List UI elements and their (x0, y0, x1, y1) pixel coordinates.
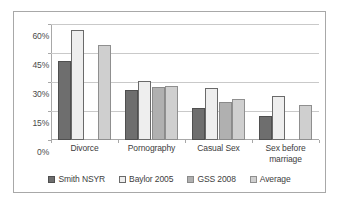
y-axis-tick-label: 30% (33, 89, 49, 99)
bar-group (252, 24, 319, 140)
bar[interactable] (219, 102, 232, 140)
y-axis-tick-labels: 0%15%30%45%60% (16, 24, 49, 140)
bar-group (51, 24, 118, 140)
legend-item[interactable]: GSS 2008 (187, 174, 235, 184)
bar[interactable] (232, 99, 245, 140)
bar[interactable] (272, 96, 285, 140)
bar-group (185, 24, 252, 140)
bar-group (118, 24, 185, 140)
legend-item[interactable]: Baylor 2005 (119, 174, 173, 184)
legend-label: Smith NSYR (58, 174, 105, 184)
y-axis-tick-label: 0% (37, 147, 49, 157)
legend-swatch-icon (187, 176, 194, 183)
bar[interactable] (205, 88, 218, 140)
legend-item[interactable]: Smith NSYR (48, 174, 105, 184)
y-axis-tick-label: 60% (33, 31, 49, 41)
chart-legend: Smith NSYRBaylor 2005GSS 2008Average (14, 174, 325, 184)
bar[interactable] (299, 105, 312, 140)
legend-swatch-icon (250, 176, 257, 183)
bar[interactable] (138, 81, 151, 140)
legend-swatch-icon (48, 176, 55, 183)
legend-label: Baylor 2005 (129, 174, 173, 184)
legend-item[interactable]: Average (250, 174, 291, 184)
bar[interactable] (125, 90, 138, 140)
bar[interactable] (71, 30, 84, 140)
y-axis-tick-label: 45% (33, 60, 49, 70)
x-axis-category-label: Divorce (51, 143, 118, 154)
plot-wrapper: 0%15%30%45%60% DivorcePornographyCasual … (14, 12, 325, 192)
bar[interactable] (259, 116, 272, 140)
chart-container: 0%15%30%45%60% DivorcePornographyCasual … (13, 11, 326, 193)
x-axis-category-label: Casual Sex (185, 143, 252, 154)
y-axis-tick-label: 15% (33, 118, 49, 128)
bar[interactable] (165, 86, 178, 140)
x-axis-category-label: Pornography (118, 143, 185, 154)
x-axis-category-label: Sex before marriage (252, 143, 319, 164)
bar[interactable] (98, 45, 111, 140)
x-axis-tick (319, 140, 320, 143)
x-axis-category-labels: DivorcePornographyCasual SexSex before m… (51, 143, 319, 173)
legend-label: GSS 2008 (197, 174, 235, 184)
bar[interactable] (152, 87, 165, 140)
plot-area (51, 24, 319, 140)
bar[interactable] (192, 108, 205, 140)
legend-label: Average (260, 174, 291, 184)
legend-swatch-icon (119, 176, 126, 183)
bar[interactable] (58, 61, 71, 140)
